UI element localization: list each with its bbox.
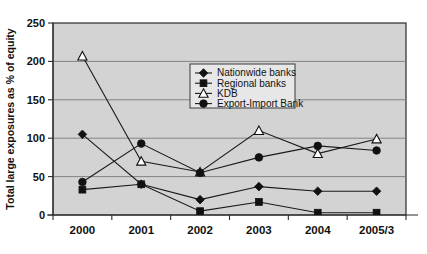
x-axis-tick-label: 2000 <box>70 224 96 236</box>
x-axis-tick-label: 2001 <box>128 224 154 236</box>
marker-regional-banks <box>138 181 145 188</box>
marker-export-import-bank <box>137 140 145 148</box>
y-axis-tick-label: 200 <box>27 55 45 67</box>
marker-regional-banks <box>79 186 86 193</box>
y-axis-tick-label: 150 <box>27 94 45 106</box>
legend-marker <box>200 80 207 87</box>
marker-regional-banks <box>197 208 204 215</box>
marker-regional-banks <box>256 199 263 206</box>
marker-export-import-bank <box>373 147 381 155</box>
line-chart: 050100150200250200020012002200320042005/… <box>0 0 427 254</box>
marker-export-import-bank <box>255 154 263 162</box>
x-axis-tick-label: 2002 <box>187 224 213 236</box>
y-axis-tick-label: 100 <box>27 132 45 144</box>
marker-export-import-bank <box>314 142 322 150</box>
y-axis-title: Total large exposures as % of equity <box>4 28 16 209</box>
marker-export-import-bank <box>196 169 204 177</box>
legend-label: Export-Import Bank <box>217 98 304 109</box>
x-axis-tick-label: 2005/3 <box>359 224 394 236</box>
x-axis-tick-label: 2003 <box>246 224 272 236</box>
x-axis-tick-label: 2004 <box>305 224 331 236</box>
marker-export-import-bank <box>79 178 87 186</box>
y-axis-tick-label: 50 <box>33 171 45 183</box>
legend-marker <box>200 100 208 108</box>
y-axis-tick-label: 250 <box>27 17 45 29</box>
plot-area <box>53 23 406 215</box>
chart-container: 050100150200250200020012002200320042005/… <box>0 0 427 254</box>
y-axis-tick-label: 0 <box>39 209 45 221</box>
